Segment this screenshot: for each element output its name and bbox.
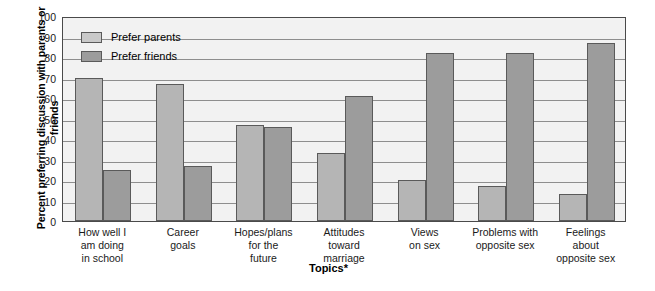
y-axis-tick-label: 0: [32, 216, 56, 228]
bar-prefer-parents: [236, 125, 264, 221]
y-axis-tick-label: 30: [32, 155, 56, 167]
y-axis-tick-label: 100: [32, 11, 56, 23]
y-axis-tick-label: 50: [32, 114, 56, 126]
legend-label-friends: Prefer friends: [111, 50, 177, 63]
bar-prefer-parents: [156, 84, 184, 221]
legend-item-prefer-parents: Prefer parents: [81, 28, 281, 46]
bar-prefer-friends: [184, 166, 212, 221]
bar-prefer-friends: [506, 53, 534, 221]
bar-prefer-friends: [103, 170, 131, 221]
legend-swatch-icon-parents: [81, 32, 102, 43]
y-axis-tick-label: 90: [32, 32, 56, 44]
plot-area: Prefer parents Prefer friends: [62, 17, 626, 222]
y-axis-tick-label: 40: [32, 134, 56, 146]
bar-prefer-parents: [317, 153, 345, 221]
legend: Prefer parents Prefer friends: [81, 28, 281, 66]
bar-prefer-friends: [426, 53, 454, 221]
bar-chart: Percent preferring discussion with paren…: [0, 0, 655, 291]
y-axis-tick-label: 20: [32, 175, 56, 187]
x-axis-category-label-line: about: [537, 239, 634, 252]
x-axis-category-label: Feelingsaboutopposite sex: [537, 226, 634, 265]
legend-swatch-icon-friends: [81, 51, 102, 62]
legend-item-prefer-friends: Prefer friends: [81, 47, 281, 65]
bar-prefer-parents: [398, 180, 426, 221]
legend-label-parents: Prefer parents: [111, 31, 181, 44]
y-axis-tick-label: 70: [32, 73, 56, 85]
bar-prefer-friends: [345, 96, 373, 221]
bar-prefer-parents: [478, 186, 506, 221]
bar-prefer-parents: [75, 78, 103, 222]
y-axis-tick-label: 10: [32, 196, 56, 208]
x-axis-title: Topics*: [0, 262, 655, 274]
bar-prefer-parents: [559, 194, 587, 221]
x-axis-category-label-line: Feelings: [537, 226, 634, 239]
y-axis-tick-label: 60: [32, 93, 56, 105]
bar-prefer-friends: [264, 127, 292, 221]
bar-prefer-friends: [587, 43, 615, 221]
y-axis-tick-label: 80: [32, 52, 56, 64]
y-axis-tick-labels: 1009080706050403020100: [32, 11, 56, 227]
